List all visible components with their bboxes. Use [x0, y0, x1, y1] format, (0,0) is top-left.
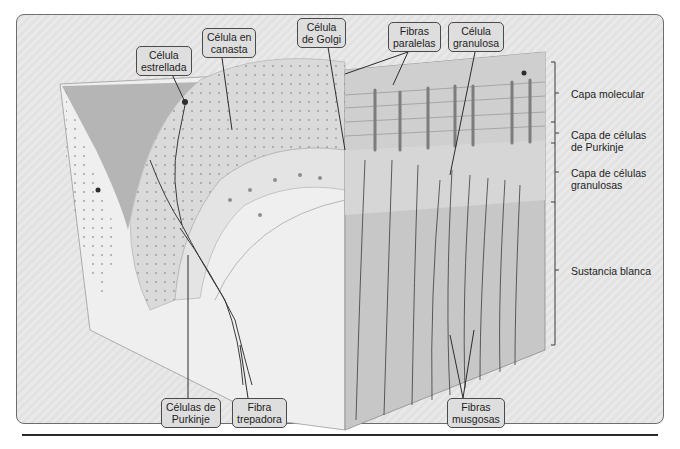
granule-cell-callout: Célula granulosa [448, 22, 504, 52]
callout-line: de Golgi [302, 33, 341, 45]
white-matter-label: Sustancia blanca [571, 265, 651, 277]
cerebellum-illustration [0, 0, 680, 449]
callout-line: Purkinje [166, 413, 216, 425]
layer-label-line: Sustancia blanca [571, 265, 651, 277]
layer-label-line: Capa de células [571, 129, 646, 141]
layer-label-line: de Purkinje [571, 141, 646, 153]
mossy-fibers-callout: Fibras musgosas [447, 398, 505, 428]
layer-label-line: Capa de células [571, 167, 646, 179]
callout-line: Fibras [393, 25, 436, 37]
callout-line: estrellada [141, 61, 187, 73]
callout-line: Fibra [237, 401, 282, 413]
callout-line: Célula [302, 21, 341, 33]
stellate-cell-callout: Célula estrellada [136, 46, 192, 76]
molecular-layer-label: Capa molecular [571, 88, 645, 100]
bottom-rule [22, 434, 658, 436]
basket-cell-callout: Célula en canasta [202, 28, 256, 58]
callout-line: paralelas [393, 37, 436, 49]
callout-line: canasta [207, 43, 251, 55]
tissue-block [60, 47, 559, 430]
callout-line: Célula en [207, 31, 251, 43]
layer-label-line: granulosas [571, 179, 646, 191]
callout-line: trepadora [237, 413, 282, 425]
purkinje-layer-label: Capa de células de Purkinje [571, 129, 646, 153]
climbing-fiber-callout: Fibra trepadora [232, 398, 287, 428]
golgi-cell-callout: Célula de Golgi [297, 18, 346, 48]
callout-line: Fibras [452, 401, 500, 413]
granular-layer-label: Capa de células granulosas [571, 167, 646, 191]
purkinje-cells-callout: Células de Purkinje [161, 398, 221, 428]
callout-line: granulosa [453, 37, 499, 49]
callout-line: Células de [166, 401, 216, 413]
parallel-fibers-callout: Fibras paralelas [388, 22, 441, 52]
callout-line: Célula [453, 25, 499, 37]
callout-line: musgosas [452, 413, 500, 425]
callout-line: Célula [141, 49, 187, 61]
layer-label-line: Capa molecular [571, 88, 645, 100]
